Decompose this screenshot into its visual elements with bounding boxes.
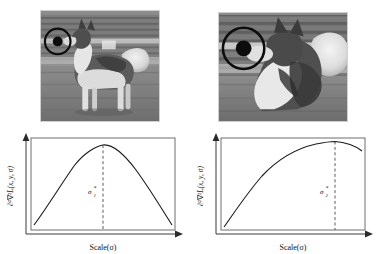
- right-sigma-superscript: *: [326, 185, 329, 191]
- left-plot-canvas: σ 1 * ∂²∇²L(x, y, σ) Scale(σ): [0, 128, 190, 254]
- right-ylabel-args: (x, y, σ): [196, 166, 205, 189]
- right-response-curve: [224, 142, 362, 228]
- svg-text:∂²∇²L(x, y, σ): ∂²∇²L(x, y, σ): [6, 166, 15, 206]
- right-scale-response-plot: σ 2 * ∂²∇²L(x, y, σ) Scale(σ): [190, 128, 380, 254]
- right-plot-canvas: σ 2 * ∂²∇²L(x, y, σ) Scale(σ): [190, 128, 380, 254]
- figure-root: σ 1 * ∂²∇²L(x, y, σ) Scale(σ): [0, 0, 380, 254]
- svg-text:∂²∇²L(x, y, σ): ∂²∇²L(x, y, σ): [196, 166, 205, 206]
- left-ylabel-args: (x, y, σ): [6, 166, 15, 189]
- left-sigma-subscript: 1: [94, 193, 97, 198]
- dog-photo-large-scale: [218, 12, 348, 122]
- right-x-axis-label: Scale(σ): [280, 243, 307, 252]
- right-y-axis-arrowhead-icon: [213, 133, 220, 141]
- right-y-axis-label: ∂²∇²L(x, y, σ): [196, 166, 205, 206]
- left-y-axis-arrowhead-icon: [23, 133, 30, 141]
- left-peak-sigma-label: σ 1 *: [88, 185, 97, 198]
- left-scale-response-plot: σ 1 * ∂²∇²L(x, y, σ) Scale(σ): [0, 128, 190, 254]
- left-x-axis-arrowhead-icon: [175, 231, 183, 238]
- right-sigma-base: σ: [320, 188, 324, 196]
- detector-center-dot-icon: [236, 40, 252, 56]
- dog-hind-leg: [118, 86, 124, 112]
- detector-center-dot-icon: [53, 37, 63, 47]
- left-y-axis-label: ∂²∇²L(x, y, σ): [6, 166, 15, 206]
- dog-hind-leg-2: [126, 84, 131, 110]
- dog-photo-small-scale: [40, 10, 160, 122]
- right-ylabel-prefix: ∂²∇²: [196, 192, 205, 206]
- photo-canvas-left: [41, 11, 159, 121]
- left-ylabel-prefix: ∂²∇²: [6, 192, 15, 206]
- dog-shadow: [74, 108, 133, 116]
- right-x-axis-arrowhead-icon: [365, 231, 373, 238]
- left-sigma-base: σ: [88, 188, 92, 196]
- left-sigma-superscript: *: [94, 185, 97, 191]
- stadium-sign: [102, 40, 116, 49]
- right-sigma-subscript: 2: [326, 193, 329, 198]
- photo-canvas-right: [219, 13, 347, 121]
- left-x-axis-label: Scale(σ): [90, 243, 117, 252]
- right-peak-sigma-label: σ 2 *: [320, 185, 329, 198]
- dog-front-leg-2: [92, 88, 97, 112]
- dog-front-leg: [82, 86, 88, 112]
